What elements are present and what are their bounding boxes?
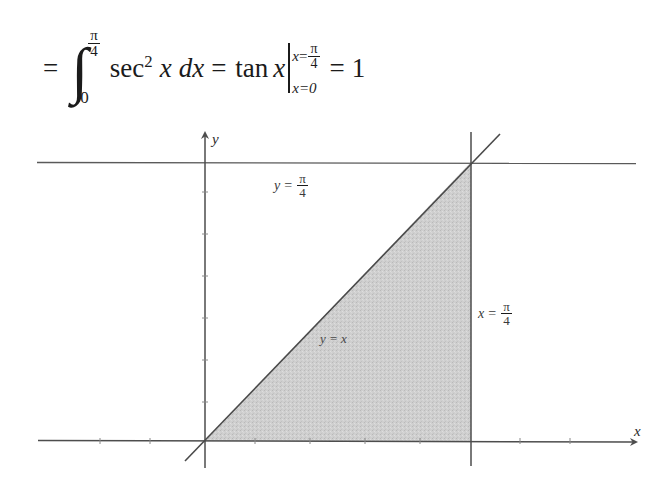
label-x-equals: = <box>488 306 496 322</box>
evaluation-upper-fraction: π4 <box>308 42 319 72</box>
fraction-denominator: 4 <box>297 185 308 199</box>
lead-equals-sign: = <box>43 53 58 84</box>
figure-graph: y x y = π 4 x = π 4 y = x <box>0 118 664 487</box>
definite-integral: ∫ π 4 0 <box>71 32 99 104</box>
label-x-fraction: π 4 <box>501 300 512 328</box>
label-y-equals-pi-over-4: y = π 4 <box>274 172 309 200</box>
fraction-numerator: π <box>308 42 319 56</box>
integral-upper-limit: π 4 <box>87 28 101 60</box>
integrand-variable: x <box>160 53 172 84</box>
evaluation-lower-limit: x=0 <box>292 81 320 96</box>
fraction-denominator: 4 <box>308 56 319 71</box>
graph-canvas: y x <box>0 118 664 487</box>
evaluation-bar-group: x=π4 x=0 <box>288 42 320 94</box>
x-axis <box>38 441 633 443</box>
secant-exponent: 2 <box>144 52 152 71</box>
evaluation-upper-equals: = <box>299 49 307 64</box>
label-y-equals: = <box>284 178 292 194</box>
evaluation-limits: x=π4 x=0 <box>292 42 320 94</box>
fraction-numerator: π <box>501 300 512 313</box>
antiderivative-variable: x <box>273 53 285 84</box>
evaluation-bar <box>288 43 290 93</box>
label-x-equals-pi-over-4: x = π 4 <box>478 300 513 328</box>
integral-result: 1 <box>352 53 366 84</box>
secant-function-name: sec <box>110 53 144 83</box>
evaluation-upper-limit: x=π4 <box>292 42 320 72</box>
x-axis-label: x <box>633 423 641 439</box>
y-axis-label: y <box>210 131 219 147</box>
middle-equals-sign: = <box>211 53 226 84</box>
fraction-pi-over-4: π 4 <box>88 28 100 60</box>
horizontal-line-y-equals-pi-over-4 <box>37 163 636 164</box>
integral-limits: π 4 0 <box>85 31 99 103</box>
integral-lower-limit: 0 <box>80 89 94 106</box>
integrand-secant: sec2 <box>110 53 153 84</box>
evaluation-upper-variable: x <box>292 49 299 64</box>
fraction-numerator: π <box>297 172 308 185</box>
figure-page: = ∫ π 4 0 sec2 x dx = tan x <box>0 0 664 487</box>
final-equals-sign: = <box>330 53 345 84</box>
label-y-lhs: y <box>274 178 280 194</box>
label-y-equals-x: y = x <box>320 331 347 347</box>
equation-line: = ∫ π 4 0 sec2 x dx = tan x <box>0 18 664 118</box>
differential-dx: dx <box>179 53 204 84</box>
antiderivative-tangent: tan <box>235 53 268 84</box>
label-y-fraction: π 4 <box>297 172 308 200</box>
fraction-denominator: 4 <box>501 313 512 327</box>
fraction-denominator: 4 <box>88 43 100 59</box>
fraction-numerator: π <box>88 28 100 43</box>
label-x-lhs: x <box>478 306 484 322</box>
